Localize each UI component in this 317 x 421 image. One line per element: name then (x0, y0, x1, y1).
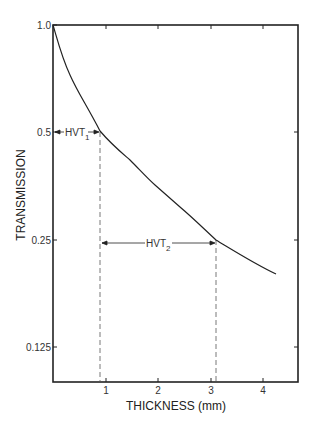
transmission-chart: 1.0 0.5 0.25 0.125 1 2 3 4 THICKNESS (mm… (0, 0, 317, 421)
y-axis-label: TRANSMISSION (14, 149, 28, 240)
x-tick-label-3: 3 (208, 385, 214, 396)
x-tick-label-2: 2 (155, 385, 161, 396)
x-axis-label: THICKNESS (mm) (126, 399, 226, 413)
y-tick-label-0.125: 0.125 (26, 342, 51, 353)
x-axis-ticks (106, 25, 263, 382)
y-tick-label-0.5: 0.5 (37, 127, 51, 138)
y-tick-label-1: 1.0 (37, 20, 51, 31)
x-tick-label-1: 1 (103, 385, 109, 396)
transmission-curve (53, 25, 276, 274)
y-axis-ticks (53, 25, 298, 347)
hvt1-label: HVT1 (65, 127, 90, 142)
x-tick-label-4: 4 (260, 385, 266, 396)
y-tick-label-0.25: 0.25 (32, 235, 52, 246)
hvt2-label: HVT2 (146, 238, 171, 253)
